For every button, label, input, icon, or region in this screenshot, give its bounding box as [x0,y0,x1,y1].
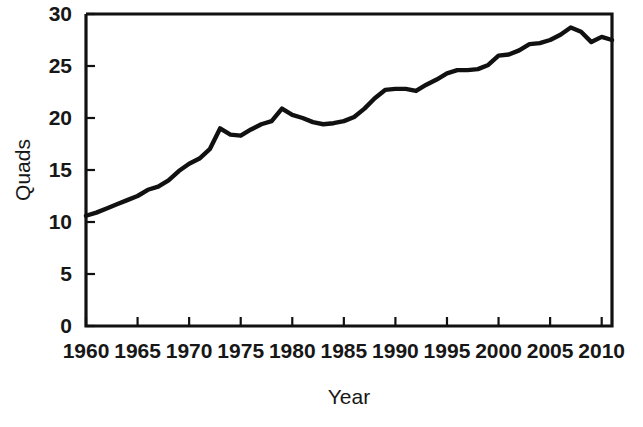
plot-frame [86,14,612,326]
x-tick-label: 2010 [578,339,625,362]
x-axis-title: Year [328,385,370,408]
x-tick-label: 1980 [269,339,316,362]
x-tick-label: 1965 [114,339,161,362]
chart-canvas: 051015202530 196019651970197519801985199… [0,0,643,427]
series-line-quads [86,28,612,216]
y-tick-label: 30 [49,2,72,25]
y-tick-label: 0 [60,314,72,337]
x-tick-label: 1995 [424,339,471,362]
y-tick-label: 5 [60,262,72,285]
line-chart: 051015202530 196019651970197519801985199… [0,0,643,427]
x-tick-label: 1975 [217,339,264,362]
axis-frame-lines [86,14,612,326]
data-series-group [86,28,612,216]
x-tick-label: 2005 [527,339,574,362]
y-axis-title: Quads [11,139,34,201]
x-axis-tick-labels: 1960196519701975198019851990199520002005… [63,339,625,362]
y-tick-label: 15 [49,158,73,181]
x-tick-label: 2000 [475,339,522,362]
y-axis-tick-labels: 051015202530 [49,2,73,337]
x-tick-label: 1985 [320,339,367,362]
x-tick-label: 1970 [166,339,213,362]
x-tick-label: 1990 [372,339,419,362]
y-tick-label: 25 [49,54,73,77]
x-tick-label: 1960 [63,339,110,362]
y-tick-label: 10 [49,210,72,233]
y-tick-label: 20 [49,106,72,129]
